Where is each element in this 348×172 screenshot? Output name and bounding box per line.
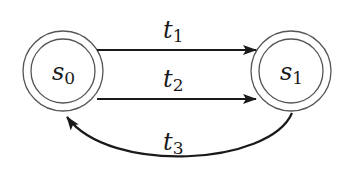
state-s1: s1 <box>251 31 331 111</box>
transition-t2-label: t2 <box>163 65 183 95</box>
state-s0-label: s0 <box>52 58 75 88</box>
transition-t3-label: t3 <box>163 128 183 158</box>
state-s1-label: s1 <box>280 58 303 88</box>
state-diagram: s0 s1 t1 t2 t3 <box>0 0 348 172</box>
transition-t1-label: t1 <box>163 16 183 46</box>
transition-t3: t3 <box>67 113 292 158</box>
diagram-svg: s0 s1 t1 t2 t3 <box>0 0 348 172</box>
transition-t1: t1 <box>97 16 256 50</box>
state-s0: s0 <box>23 31 103 111</box>
transition-t2: t2 <box>97 65 256 99</box>
